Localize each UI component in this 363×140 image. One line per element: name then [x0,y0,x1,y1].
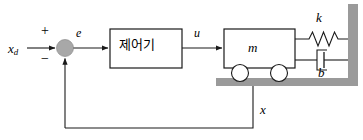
wall-support [348,4,358,86]
spring-element [295,32,348,46]
wheel [271,65,288,82]
diagram-canvas [0,0,363,140]
wheel [232,65,249,82]
controller-block-label: 제어기 [119,38,155,51]
mass-block [224,29,295,68]
feedback-path [65,86,253,128]
summing-junction-node [57,40,74,57]
summing-junction-plus-sign: + [41,24,49,38]
damper-element [295,50,348,70]
block-diagram: xd + − e 제어기 u m k b x [0,0,363,140]
summing-junction-minus-sign: − [41,52,49,66]
